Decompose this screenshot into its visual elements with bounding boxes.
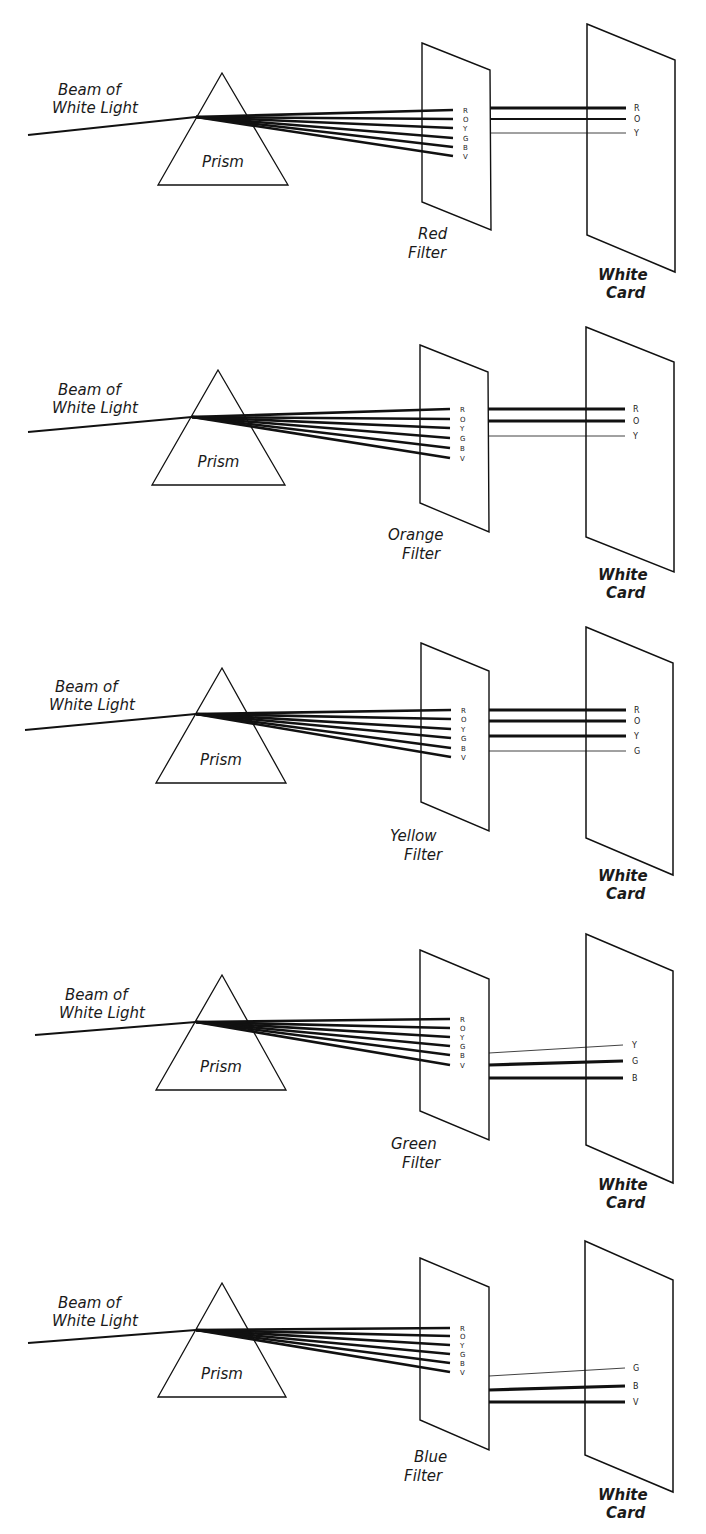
card-label: WhiteCard	[598, 266, 648, 302]
prism-label: Prism	[200, 751, 242, 769]
spectrum-letter: R	[460, 406, 465, 414]
panel-yellow-filter: Beam ofWhite LightPrismROYGBVYellowFilte…	[25, 627, 673, 903]
spectrum-letter: Y	[460, 726, 466, 734]
prism-label: Prism	[200, 1058, 242, 1076]
spectrum-letter: V	[460, 1369, 465, 1377]
panel-blue-filter: Beam ofWhite LightPrismROYGBVBlueFilterG…	[28, 1241, 673, 1522]
filter-label: OrangeFilter	[388, 526, 443, 563]
transmitted-letter: O	[634, 717, 640, 726]
transmitted-letter: Y	[632, 432, 638, 441]
filter-label: RedFilter	[408, 225, 448, 262]
beam-label: Beam ofWhite Light	[52, 1294, 139, 1330]
transmitted-ray-b	[489, 1386, 625, 1390]
white-light-beam	[35, 1022, 196, 1035]
transmitted-letter: Y	[631, 1041, 637, 1050]
spectrum-letter: B	[463, 144, 468, 152]
spectrum-letter: R	[460, 1325, 465, 1333]
filter-label: GreenFilter	[391, 1135, 441, 1172]
card-label: WhiteCard	[598, 867, 648, 903]
spectrum-letter: B	[461, 745, 466, 753]
transmitted-letter: G	[634, 747, 640, 756]
filter-plate	[420, 345, 489, 532]
spectrum-letter: V	[461, 754, 466, 762]
transmitted-letter: R	[634, 706, 640, 715]
white-card	[585, 1241, 673, 1492]
transmitted-letter: R	[633, 405, 639, 414]
transmitted-ray-g	[489, 1061, 623, 1065]
panel-green-filter: Beam ofWhite LightPrismROYGBVGreenFilter…	[35, 934, 673, 1212]
transmitted-letter: O	[633, 417, 639, 426]
spectrum-letter: G	[460, 1351, 465, 1359]
white-light-beam	[28, 117, 196, 135]
white-card	[586, 934, 673, 1183]
transmitted-ray-y	[489, 1045, 623, 1053]
white-light-beam	[28, 1330, 196, 1343]
spectrum-letter: Y	[462, 125, 468, 133]
beam-label: Beam ofWhite Light	[49, 678, 136, 714]
panel-red-filter: Beam ofWhite LightPrismROYGBVRedFilterRO…	[28, 24, 675, 302]
transmitted-ray-g	[489, 1368, 625, 1376]
card-label: WhiteCard	[598, 566, 648, 602]
prism-label: Prism	[201, 1365, 243, 1383]
prism-filter-diagram: Beam ofWhite LightPrismROYGBVRedFilterRO…	[0, 0, 706, 1534]
spectrum-letter: Y	[459, 1034, 465, 1042]
spectrum-letter: V	[460, 1062, 465, 1070]
prism-label: Prism	[198, 453, 240, 471]
transmitted-letter: G	[632, 1057, 638, 1066]
dispersed-ray-r	[196, 1019, 450, 1022]
card-label: WhiteCard	[598, 1176, 648, 1212]
white-card	[586, 327, 674, 572]
spectrum-letter: G	[460, 435, 465, 443]
dispersed-ray-r	[196, 110, 453, 117]
spectrum-letter: R	[461, 707, 466, 715]
spectrum-letter: V	[463, 153, 468, 161]
card-label: WhiteCard	[598, 1486, 648, 1522]
filter-label: BlueFilter	[404, 1448, 447, 1485]
spectrum-letter: O	[461, 716, 467, 724]
prism-label: Prism	[202, 153, 244, 171]
spectrum-letter: Y	[459, 1342, 465, 1350]
beam-label: Beam ofWhite Light	[52, 81, 139, 117]
white-light-beam	[25, 714, 196, 730]
transmitted-letter: R	[634, 104, 640, 113]
spectrum-letter: Y	[459, 425, 465, 433]
spectrum-letter: B	[460, 1360, 465, 1368]
transmitted-letter: Y	[633, 129, 639, 138]
spectrum-letter: O	[460, 1025, 466, 1033]
spectrum-letter: B	[460, 1052, 465, 1060]
spectrum-letter: G	[460, 1043, 465, 1051]
spectrum-letter: B	[460, 445, 465, 453]
spectrum-letter: G	[463, 135, 468, 143]
spectrum-letter: O	[460, 1333, 466, 1341]
panel-orange-filter: Beam ofWhite LightPrismROYGBVOrangeFilte…	[28, 327, 674, 602]
dispersed-ray-r	[192, 409, 450, 417]
beam-label: Beam ofWhite Light	[59, 986, 146, 1022]
spectrum-letter: R	[463, 107, 468, 115]
dispersed-ray-r	[196, 710, 451, 714]
transmitted-letter: G	[633, 1364, 639, 1373]
beam-label: Beam ofWhite Light	[52, 381, 139, 417]
transmitted-letter: B	[633, 1382, 639, 1391]
transmitted-letter: B	[632, 1074, 638, 1083]
spectrum-letter: G	[461, 735, 466, 743]
spectrum-letter: O	[463, 116, 469, 124]
transmitted-letter: V	[633, 1398, 639, 1407]
filter-plate	[420, 1258, 489, 1450]
spectrum-letter: O	[460, 416, 466, 424]
filter-label: YellowFilter	[390, 827, 443, 864]
spectrum-letter: R	[460, 1016, 465, 1024]
transmitted-letter: O	[634, 115, 640, 124]
spectrum-letter: V	[460, 455, 465, 463]
white-card	[587, 24, 675, 272]
transmitted-letter: Y	[633, 732, 639, 741]
white-light-beam	[28, 417, 192, 432]
